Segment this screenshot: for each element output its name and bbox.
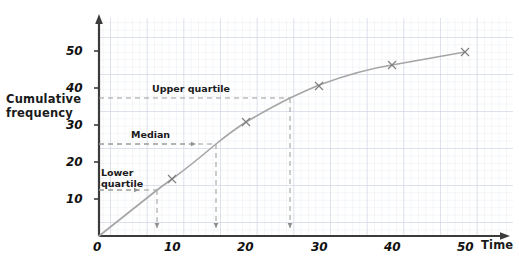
x-tick-label-20: 20	[237, 240, 254, 254]
x-tick-label-0: 0	[93, 240, 101, 254]
x-tick-label-50: 50	[457, 240, 474, 254]
y-tick-label-40: 40	[66, 81, 83, 95]
grid-major	[99, 18, 513, 236]
annotation-lower-quartile: Lower quartile	[101, 167, 143, 189]
y-tick-label-30: 30	[66, 118, 83, 132]
cumulative-frequency-chart: Cumulative frequency Time 10 20 30 40 50…	[0, 0, 519, 269]
chart-canvas	[0, 0, 519, 269]
x-tick-label-40: 40	[384, 240, 401, 254]
x-tick-label-10: 10	[164, 240, 181, 254]
x-tick-label-30: 30	[311, 240, 328, 254]
y-tick-label-10: 10	[66, 192, 83, 206]
y-tick-label-50: 50	[66, 44, 83, 58]
annotation-median: Median	[131, 129, 170, 140]
annotation-upper-quartile: Upper quartile	[152, 83, 230, 94]
y-axis-title: Cumulative frequency	[6, 92, 94, 120]
x-axis-title: Time	[481, 238, 513, 252]
y-tick-label-20: 20	[66, 155, 83, 169]
